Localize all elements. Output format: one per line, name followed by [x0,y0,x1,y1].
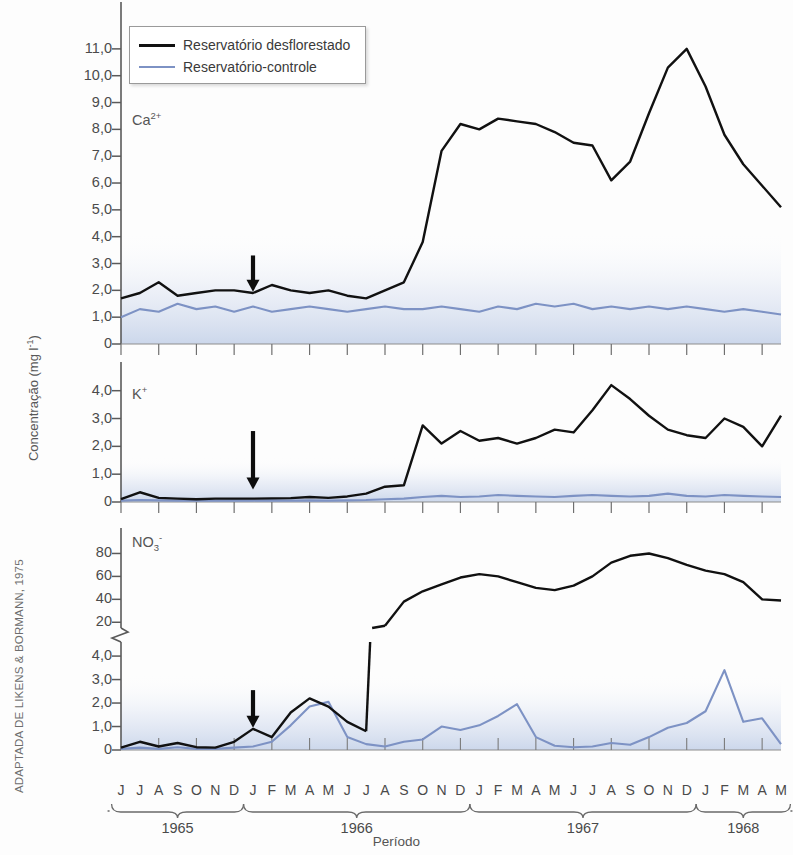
species-label-potassium: K+ [132,384,147,402]
y-tick-label: 10,0 [0,68,112,83]
y-tick-label: 5,0 [0,202,112,217]
month-label: A [531,782,540,798]
species-label-nitrate: NO3- [132,532,162,553]
month-label: J [344,782,351,798]
background-wash [121,673,781,750]
legend-item-control: Reservatório-controle [139,56,356,78]
y-tick-label: 0 [0,742,112,757]
y-tick-label: 1,0 [0,309,112,324]
month-label: J [118,782,125,798]
series-line-deforested-break-upper [372,626,385,628]
month-label: S [173,782,182,798]
y-tick-label: 7,0 [0,148,112,163]
y-tick-label: 8,0 [0,121,112,136]
species-charge: - [159,532,162,543]
y-tick-label: 4,0 [0,229,112,244]
y-tick-label: 0 [0,494,112,509]
y-tick-label: 3,0 [0,256,112,271]
month-label: J [589,782,596,798]
month-label: D [229,782,239,798]
y-tick-label: 9,0 [0,95,112,110]
month-label: J [250,782,257,798]
x-axis-months: JJASONDJFMAMJJASONDJFMAMJJASONDJFMAM [121,782,781,804]
plot-area-nitrate [0,524,793,782]
month-label: N [210,782,220,798]
month-label: N [663,782,673,798]
month-label: M [323,782,335,798]
month-label: J [570,782,577,798]
month-label: M [511,782,523,798]
y-tick-label: 3,0 [0,672,112,687]
y-tick-label: 2,0 [0,438,112,453]
plot-area-potassium [0,362,793,522]
month-label: S [625,782,634,798]
month-label: A [607,782,616,798]
month-label: J [476,782,483,798]
panel-nitrate: NO3- 01,02,03,04,020406080 [0,524,793,782]
y-tick-label: 4,0 [0,383,112,398]
line-swatch-blue-icon [139,66,175,68]
legend-label-deforested: Reservatório desflorestado [183,37,350,53]
month-label: A [154,782,163,798]
month-label: A [380,782,389,798]
legend: Reservatório desflorestado Reservatório-… [129,26,366,84]
panel-calcium: Ca2+ 01,02,03,04,05,06,07,08,09,010,011,… [0,0,793,360]
y-tick-label: 20 [0,614,112,629]
y-tick-label: 80 [0,545,112,560]
y-tick-label: 1,0 [0,466,112,481]
year-bracket-lines [107,802,793,822]
year-bracket [244,804,470,818]
month-label: M [549,782,561,798]
legend-label-control: Reservatório-controle [183,59,317,75]
y-tick-label: 11,0 [0,41,112,56]
month-label: A [305,782,314,798]
month-label: M [775,782,787,798]
month-label: D [682,782,692,798]
chart-figure: ADAPTADA DE LIKENS & BORMANN, 1975 Conce… [0,0,793,855]
month-label: S [399,782,408,798]
month-label: J [363,782,370,798]
species-charge: 2+ [151,110,162,121]
month-label: J [136,782,143,798]
month-label: F [494,782,503,798]
series-line-deforested [385,553,781,625]
month-label: O [644,782,655,798]
year-bracket [696,804,790,818]
month-label: A [757,782,766,798]
year-bracket [470,804,696,818]
legend-item-deforested: Reservatório desflorestado [139,34,356,56]
y-tick-label: 1,0 [0,719,112,734]
species-main: Ca [132,112,151,128]
species-main: NO [132,534,154,550]
month-label: M [737,782,749,798]
y-tick-label: 4,0 [0,648,112,663]
background-wash [121,229,781,344]
year-bracket [112,804,244,818]
species-subscript: 3 [154,542,159,553]
x-axis-title: Período [0,834,793,849]
panel-potassium: K+ 01,02,03,04,0 [0,362,793,522]
y-tick-label: 6,0 [0,175,112,190]
line-swatch-black-icon [139,44,175,47]
plot-area-calcium [0,0,793,360]
month-label: O [191,782,202,798]
month-label: J [702,782,709,798]
y-tick-label: 2,0 [0,282,112,297]
y-tick-label: 3,0 [0,411,112,426]
month-label: O [417,782,428,798]
species-main: K [132,386,142,402]
month-label: D [455,782,465,798]
species-charge: + [142,384,148,395]
month-label: N [437,782,447,798]
y-tick-label: 2,0 [0,695,112,710]
month-label: F [268,782,277,798]
species-label-calcium: Ca2+ [132,110,161,128]
y-tick-label: 40 [0,591,112,606]
month-label: F [720,782,729,798]
month-label: M [285,782,297,798]
y-tick-label: 0 [0,336,112,351]
y-tick-label: 60 [0,568,112,583]
axis-break-icon [112,628,128,642]
